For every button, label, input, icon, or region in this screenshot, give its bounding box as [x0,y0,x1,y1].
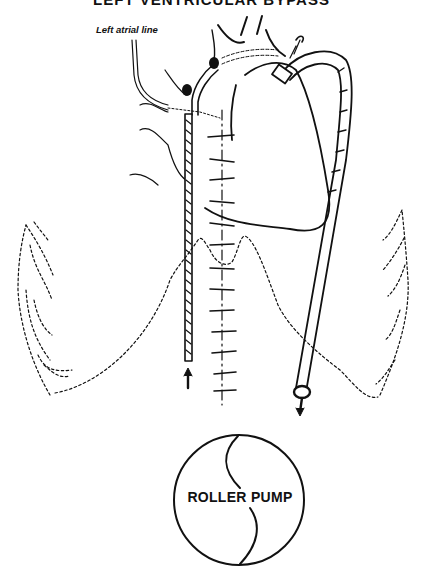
purse-string-suture [182,84,192,96]
heart-outline [130,63,329,231]
rib-cage-outline [18,210,408,397]
great-vessels [212,16,285,60]
sternal-closure [208,110,236,405]
roller-pump-label: ROLLER PUMP [180,489,300,505]
cannula-tie [209,57,219,69]
graft-connector [294,386,310,398]
graft-anastomosis-ring [272,64,292,83]
inflow-arrow-up-icon [184,368,192,388]
medical-diagram [0,0,423,573]
inflow-cannula [182,57,219,361]
dashed-aortic-path [222,49,278,64]
left-atrial-line [132,40,220,118]
outflow-graft [272,36,352,398]
outflow-arrow-down-icon [296,398,304,416]
